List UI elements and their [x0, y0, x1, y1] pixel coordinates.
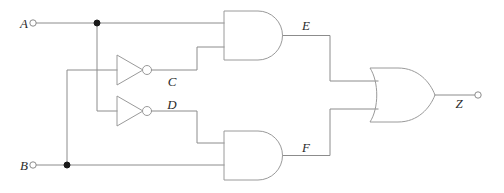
- junction-dot-a: [94, 20, 100, 26]
- label-signal-c: C: [168, 74, 177, 89]
- wire-c-to-and-gate-e: [152, 47, 225, 70]
- input-terminal-b[interactable]: [30, 162, 36, 168]
- and-gate-f-body: [224, 131, 283, 180]
- inverter-d-bubble: [143, 107, 152, 116]
- label-signal-e: E: [301, 18, 310, 33]
- wire-a-to-inverter-d: [97, 23, 117, 111]
- label-signal-f: F: [301, 140, 311, 155]
- or-gate-z-body: [370, 68, 435, 122]
- wire-d-to-and-gate-f: [152, 111, 225, 143]
- output-terminal-z[interactable]: [475, 92, 481, 98]
- wire-b-to-inverter-c: [67, 70, 117, 165]
- inverter-c-triangle: [117, 55, 143, 85]
- inverter-c-bubble: [143, 66, 152, 75]
- label-signal-d: D: [166, 97, 177, 112]
- logic-circuit-diagram: A B C D E F Z: [0, 0, 504, 193]
- circuit-canvas: A B C D E F Z: [0, 0, 504, 193]
- label-output-z: Z: [455, 96, 463, 111]
- inverter-d-triangle: [117, 96, 143, 126]
- junction-dot-b: [64, 162, 70, 168]
- label-input-b: B: [20, 158, 28, 173]
- input-terminal-a[interactable]: [30, 20, 36, 26]
- label-input-a: A: [19, 16, 28, 31]
- and-gate-e-body: [224, 11, 283, 60]
- wire-f-to-or-gate: [283, 109, 378, 156]
- wire-e-to-or-gate: [283, 36, 378, 82]
